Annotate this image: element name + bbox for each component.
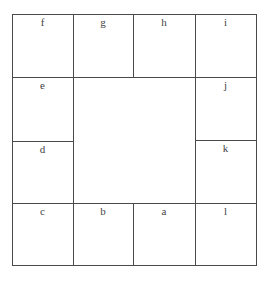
divider-col-1: [73, 14, 74, 266]
divider-col-2-bottom: [133, 203, 134, 266]
cell-c: c: [12, 203, 73, 265]
cell-label-g: g: [73, 16, 133, 28]
center-empty-area: [73, 77, 195, 203]
divider-col-3: [195, 14, 196, 266]
cell-label-i: i: [195, 16, 256, 28]
divider-col-2-top: [133, 14, 134, 77]
cell-j: j: [195, 77, 256, 140]
cell-label-f: f: [12, 16, 73, 28]
cell-e: e: [12, 77, 73, 141]
divider-bottom-row-top: [12, 203, 257, 204]
divider-right-middle: [195, 140, 256, 141]
divider-left-middle: [12, 141, 73, 142]
cell-label-k: k: [195, 142, 256, 154]
cell-label-a: a: [133, 205, 195, 217]
cell-d: d: [12, 141, 73, 203]
cell-h: h: [133, 14, 195, 77]
cell-l: l: [195, 203, 256, 265]
cell-label-l: l: [195, 205, 256, 217]
outer-border-left: [12, 14, 13, 266]
cell-label-h: h: [133, 16, 195, 28]
cell-f: f: [12, 14, 73, 77]
cell-k: k: [195, 140, 256, 203]
cell-b: b: [73, 203, 133, 265]
cell-i: i: [195, 14, 256, 77]
cell-label-d: d: [12, 143, 73, 155]
cell-label-e: e: [12, 79, 73, 91]
divider-top-row-bottom: [12, 77, 257, 78]
cell-label-c: c: [12, 205, 73, 217]
outer-border-top: [12, 14, 257, 15]
ring-diagram: f g h i e d j k c b a l: [0, 0, 269, 281]
outer-border-bottom: [12, 265, 257, 266]
cell-g: g: [73, 14, 133, 77]
outer-border-right: [256, 14, 257, 266]
cell-label-j: j: [195, 79, 256, 91]
cell-a: a: [133, 203, 195, 265]
cell-label-b: b: [73, 205, 133, 217]
